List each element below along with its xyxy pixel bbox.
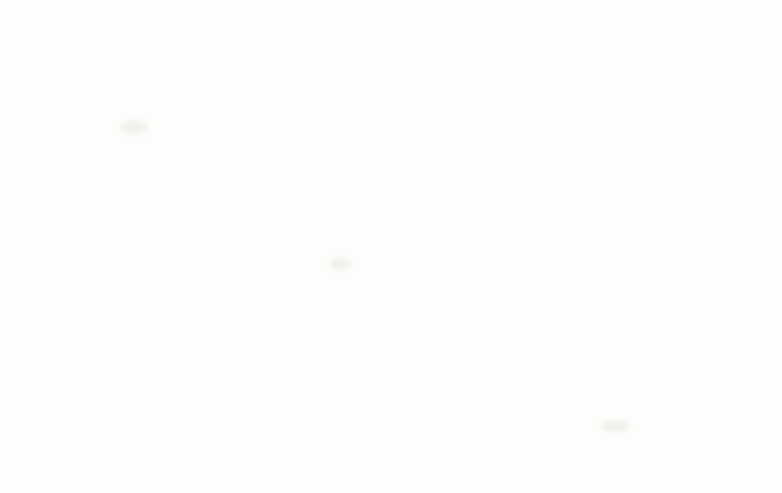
chart-page: [0, 0, 782, 493]
series-canvas: [47, 40, 772, 455]
plot-area: [47, 40, 772, 455]
